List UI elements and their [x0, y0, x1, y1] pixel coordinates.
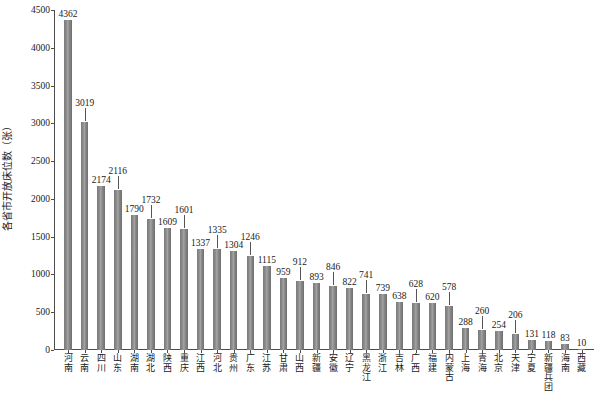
- value-label-leader-line: [217, 235, 218, 248]
- y-axis-title: 各省市开放床位数（张）: [0, 0, 16, 352]
- bar: [131, 215, 139, 350]
- bar-value-label: 846: [326, 262, 340, 272]
- x-axis-category-label: 江苏: [261, 354, 272, 373]
- bar-value-label: 959: [276, 267, 290, 277]
- x-axis-category-labels: 河南云南四川山东湖南湖北陕西重庆江西河北贵州广东江苏甘肃山西新疆安徽辽宁黑龙江浙…: [54, 354, 594, 416]
- bar: [81, 122, 89, 350]
- bar: [512, 334, 520, 350]
- y-axis-tick-mark: [51, 86, 54, 87]
- value-label-leader-line: [250, 242, 251, 255]
- y-axis-tick-mark: [51, 48, 54, 49]
- bar-value-label: 628: [409, 279, 423, 289]
- bar: [180, 229, 188, 350]
- y-axis-tick-mark: [51, 161, 54, 162]
- y-axis-tick-mark: [51, 274, 54, 275]
- bar-value-label: 254: [492, 320, 506, 330]
- x-axis-category-label: 广东: [245, 354, 256, 373]
- bar-value-label: 1609: [158, 217, 177, 227]
- y-axis-tick-mark: [51, 10, 54, 11]
- x-axis-category-label: 吉林: [394, 354, 405, 373]
- bar: [396, 302, 404, 350]
- bar-value-label: 1790: [125, 204, 144, 214]
- x-axis-category-label: 广西: [410, 354, 421, 373]
- y-axis-tick-mark: [51, 123, 54, 124]
- bar-value-label: 741: [359, 270, 373, 280]
- bar: [329, 286, 337, 350]
- bar: [495, 331, 503, 350]
- bar: [362, 294, 370, 350]
- bar: [528, 340, 536, 350]
- x-axis-category-label: 湖南: [129, 354, 140, 373]
- x-axis-category-label: 上海: [460, 354, 471, 373]
- y-axis-tick-mark: [51, 237, 54, 238]
- x-axis-category-label: 辽宁: [344, 354, 355, 373]
- bar-value-label: 620: [425, 292, 439, 302]
- y-axis-tick-mark: [51, 199, 54, 200]
- y-axis-tick-label: 500: [36, 307, 50, 317]
- x-axis-category-label: 甘肃: [278, 354, 289, 373]
- value-label-leader-line: [482, 316, 483, 329]
- bar-value-label: 10: [577, 338, 587, 348]
- bar-value-label: 1337: [191, 238, 210, 248]
- bar-value-label: 260: [475, 306, 489, 316]
- bar-value-label: 2116: [108, 166, 127, 176]
- bar: [213, 249, 221, 350]
- x-axis-category-label: 新疆: [311, 354, 322, 373]
- bar-value-label: 578: [442, 282, 456, 292]
- x-axis-category-label: 重庆: [179, 354, 190, 373]
- bar: [346, 288, 354, 350]
- bar-value-label: 1732: [141, 195, 160, 205]
- y-axis-tick-label: 1000: [31, 269, 50, 279]
- bar-value-label: 1115: [258, 255, 276, 265]
- bar-value-label: 131: [525, 329, 539, 339]
- bar-value-label: 638: [392, 291, 406, 301]
- value-label-leader-line: [333, 272, 334, 285]
- bar: [247, 256, 255, 350]
- bar-value-label: 912: [293, 257, 307, 267]
- bar-value-label: 3019: [75, 98, 94, 108]
- bar-value-label: 4362: [59, 9, 78, 19]
- bar: [429, 303, 437, 350]
- bar-value-label: 1601: [175, 205, 194, 215]
- y-axis-tick-label: 2500: [31, 156, 50, 166]
- bar-value-label: 1246: [241, 232, 260, 242]
- x-axis-category-label: 河北: [212, 354, 223, 373]
- bar: [147, 219, 155, 350]
- x-axis-category-label: 山东: [112, 354, 123, 373]
- value-label-leader-line: [515, 320, 516, 333]
- bar: [462, 328, 470, 350]
- value-label-leader-line: [184, 215, 185, 228]
- bar-value-label: 118: [541, 330, 555, 340]
- y-axis-tick-label: 3500: [31, 81, 50, 91]
- bar-value-label: 1304: [224, 240, 243, 250]
- y-axis-tick-label: 2000: [31, 194, 50, 204]
- x-axis-category-label: 湖北: [145, 354, 156, 373]
- y-axis-tick-label: 4500: [31, 5, 50, 15]
- y-axis-line: [54, 10, 55, 350]
- value-label-leader-line: [85, 108, 86, 121]
- x-axis-category-label: 宁夏: [526, 354, 537, 373]
- y-axis-tick-label: 0: [45, 345, 50, 355]
- bar: [280, 278, 288, 350]
- x-axis-category-label: 贵州: [228, 354, 239, 373]
- bar: [197, 249, 205, 350]
- bar-value-label: 2174: [92, 175, 111, 185]
- bar: [545, 341, 553, 350]
- value-label-leader-line: [151, 205, 152, 218]
- x-axis-category-label: 安徽: [328, 354, 339, 373]
- bar-value-label: 1335: [208, 225, 227, 235]
- y-axis-tick-label: 3000: [31, 118, 50, 128]
- bar-value-label: 83: [560, 333, 570, 343]
- value-label-leader-line: [366, 280, 367, 293]
- x-axis-category-label: 新疆兵团: [543, 354, 554, 392]
- bar: [313, 283, 321, 350]
- bar: [230, 251, 238, 350]
- bar: [412, 303, 420, 350]
- value-label-leader-line: [300, 267, 301, 280]
- y-axis-title-label: 各省市开放床位数（张）: [3, 121, 13, 231]
- x-axis-category-label: 江西: [195, 354, 206, 373]
- value-label-leader-line: [416, 289, 417, 302]
- plot-area: 4362301921742116179017321609160113371335…: [54, 10, 594, 350]
- bar: [114, 190, 122, 350]
- x-axis-category-label: 河南: [63, 354, 74, 373]
